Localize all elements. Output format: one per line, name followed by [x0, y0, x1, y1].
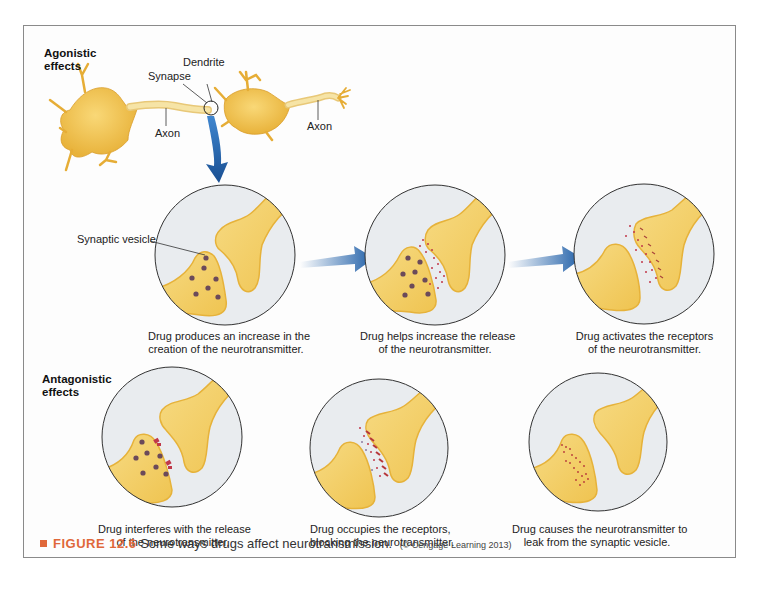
arrow-right-icon — [508, 246, 582, 272]
square-bullet-icon — [40, 540, 47, 547]
panel-occupy-receptors — [305, 376, 452, 517]
figure-number: FIGURE 12.6 — [53, 536, 137, 551]
panel-increase-release — [360, 180, 510, 325]
figure-caption: FIGURE 12.6 Some ways drugs affect neuro… — [40, 536, 511, 551]
antagonistic-heading: Antagonistic effects — [42, 373, 112, 399]
zoom-arrow-icon — [206, 116, 228, 183]
figure-credit: (© Cengage Learning 2013) — [400, 540, 512, 550]
panel-leak-vesicle — [525, 368, 680, 511]
neuron-illustration — [50, 64, 350, 170]
caption-leak-vesicle: Drug causes the neurotransmitter to leak… — [512, 523, 682, 549]
label-axon-right: Axon — [307, 120, 332, 132]
panel-activate-receptors — [570, 180, 720, 324]
label-synapse: Synapse — [148, 70, 191, 82]
panel-interfere-release — [100, 362, 246, 508]
caption-increase-creation: Drug produces an increase in the creatio… — [148, 330, 304, 356]
panel-increase-creation — [150, 180, 300, 325]
label-axon-left: Axon — [155, 127, 180, 139]
arrow-right-icon — [300, 246, 374, 272]
label-synaptic-vesicle: Synaptic vesicle — [77, 233, 156, 245]
caption-increase-release: Drug helps increase the release of the n… — [360, 330, 510, 356]
agonistic-heading: Agonistic effects — [44, 47, 96, 73]
figure-caption-text: Some ways drugs affect neurotransmission… — [140, 536, 392, 551]
caption-activate-receptors: Drug activates the receptors of the neur… — [572, 330, 717, 356]
label-dendrite: Dendrite — [183, 56, 225, 68]
